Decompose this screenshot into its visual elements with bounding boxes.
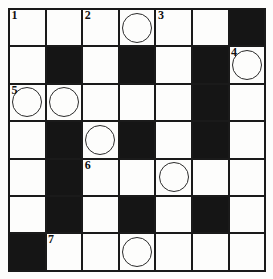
crossword-open-cell[interactable] — [120, 85, 157, 122]
crossword-block-cell — [230, 10, 267, 47]
crossword-block-cell — [47, 197, 84, 234]
crossword-block-cell — [47, 160, 84, 197]
crossword-open-cell[interactable] — [156, 197, 193, 234]
cell-circle-marker-icon — [85, 125, 115, 155]
cell-number: 2 — [85, 8, 91, 22]
crossword-open-cell[interactable]: 5 — [10, 85, 47, 122]
cell-circle-marker-icon — [159, 162, 189, 192]
cell-number: 3 — [158, 8, 164, 22]
crossword-open-cell[interactable] — [10, 197, 47, 234]
cell-number: 1 — [12, 8, 18, 22]
crossword-open-cell[interactable] — [120, 10, 157, 47]
crossword-open-cell[interactable] — [83, 85, 120, 122]
crossword-open-cell[interactable] — [230, 85, 267, 122]
cell-number: 6 — [85, 158, 91, 172]
crossword-open-cell[interactable]: 3 — [156, 10, 193, 47]
crossword-open-cell[interactable] — [47, 85, 84, 122]
crossword-block-cell — [47, 122, 84, 159]
crossword-open-cell[interactable] — [230, 197, 267, 234]
crossword-open-cell[interactable] — [193, 10, 230, 47]
crossword-open-cell[interactable] — [83, 122, 120, 159]
crossword-open-cell[interactable]: 4 — [230, 47, 267, 84]
crossword-open-cell[interactable] — [193, 160, 230, 197]
crossword-open-cell[interactable] — [10, 160, 47, 197]
crossword-open-cell[interactable] — [156, 47, 193, 84]
crossword-open-cell[interactable] — [10, 47, 47, 84]
crossword-open-cell[interactable] — [83, 197, 120, 234]
crossword-open-cell[interactable] — [156, 122, 193, 159]
crossword-block-cell — [120, 47, 157, 84]
cell-circle-marker-icon — [49, 87, 79, 117]
crossword-open-cell[interactable] — [230, 234, 267, 271]
crossword-puzzle-figure: 1234567 — [0, 0, 273, 279]
crossword-block-cell — [120, 197, 157, 234]
crossword-block-cell — [193, 47, 230, 84]
crossword-block-cell — [10, 234, 47, 271]
crossword-open-cell[interactable]: 1 — [10, 10, 47, 47]
crossword-block-cell — [120, 122, 157, 159]
crossword-grid[interactable]: 1234567 — [8, 8, 266, 272]
crossword-block-cell — [193, 197, 230, 234]
crossword-open-cell[interactable] — [10, 122, 47, 159]
crossword-open-cell[interactable] — [230, 122, 267, 159]
crossword-open-cell[interactable]: 7 — [47, 234, 84, 271]
crossword-open-cell[interactable] — [230, 160, 267, 197]
crossword-block-cell — [193, 85, 230, 122]
crossword-open-cell[interactable] — [156, 234, 193, 271]
crossword-open-cell[interactable] — [120, 234, 157, 271]
cell-circle-marker-icon — [122, 13, 152, 43]
crossword-open-cell[interactable] — [83, 234, 120, 271]
cell-circle-marker-icon — [122, 237, 152, 267]
crossword-open-cell[interactable] — [120, 160, 157, 197]
crossword-open-cell[interactable] — [193, 234, 230, 271]
cell-number: 5 — [12, 83, 18, 97]
crossword-open-cell[interactable]: 6 — [83, 160, 120, 197]
crossword-block-cell — [47, 47, 84, 84]
crossword-block-cell — [193, 122, 230, 159]
crossword-open-cell[interactable] — [83, 47, 120, 84]
crossword-open-cell[interactable] — [156, 160, 193, 197]
crossword-open-cell[interactable] — [156, 85, 193, 122]
crossword-open-cell[interactable] — [47, 10, 84, 47]
crossword-open-cell[interactable]: 2 — [83, 10, 120, 47]
cell-number: 4 — [231, 45, 237, 59]
cell-number: 7 — [48, 232, 54, 246]
